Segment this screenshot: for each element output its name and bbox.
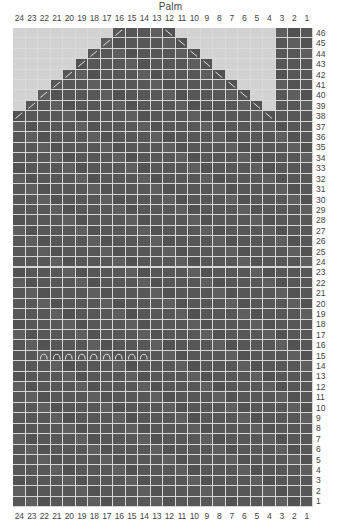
stitch-cell bbox=[176, 434, 189, 444]
stitch-cell bbox=[213, 486, 226, 496]
stitch-cell bbox=[213, 403, 226, 413]
stitch-cell bbox=[201, 278, 214, 288]
no-stitch-cell bbox=[263, 59, 276, 69]
stitch-cell bbox=[51, 392, 64, 402]
stitch-cell bbox=[176, 403, 189, 413]
stitch-cell bbox=[76, 403, 89, 413]
stitch-cell bbox=[201, 424, 214, 434]
stitch-cell bbox=[176, 465, 189, 475]
stitch-cell bbox=[101, 361, 114, 371]
stitch-cell bbox=[51, 465, 64, 475]
stitch-cell bbox=[88, 132, 101, 142]
stitch-cell bbox=[251, 455, 264, 465]
arc-icon bbox=[76, 351, 88, 360]
stitch-cell bbox=[51, 153, 64, 163]
stitch-cell bbox=[238, 413, 251, 423]
stitch-cell bbox=[251, 111, 264, 121]
stitch-cell bbox=[126, 424, 139, 434]
row-label: 12 bbox=[316, 382, 340, 392]
stitch-cell bbox=[276, 268, 289, 278]
stitch-cell bbox=[276, 278, 289, 288]
no-stitch-cell bbox=[213, 28, 226, 38]
stitch-cell bbox=[251, 361, 264, 371]
stitch-cell bbox=[213, 392, 226, 402]
stitch-cell bbox=[301, 101, 314, 111]
stitch-cell bbox=[113, 476, 126, 486]
stitch-cell bbox=[301, 184, 314, 194]
stitch-cell bbox=[88, 403, 101, 413]
stitch-cell bbox=[26, 278, 39, 288]
stitch-cell bbox=[176, 153, 189, 163]
stitch-cell bbox=[126, 278, 139, 288]
stitch-cell bbox=[301, 49, 314, 59]
stitch-cell bbox=[251, 236, 264, 246]
column-label: 19 bbox=[76, 13, 89, 24]
stitch-cell bbox=[163, 153, 176, 163]
stitch-cell bbox=[238, 288, 251, 298]
stitch-cell bbox=[13, 455, 26, 465]
stitch-cell bbox=[151, 445, 164, 455]
stitch-cell bbox=[76, 278, 89, 288]
stitch-cell bbox=[151, 268, 164, 278]
stitch-cell bbox=[213, 122, 226, 132]
stitch-cell bbox=[276, 184, 289, 194]
stitch-cell bbox=[88, 445, 101, 455]
stitch-cell bbox=[251, 434, 264, 444]
stitch-cell bbox=[101, 90, 114, 100]
stitch-cell bbox=[201, 215, 214, 225]
stitch-cell bbox=[201, 434, 214, 444]
column-label: 15 bbox=[126, 13, 139, 24]
stitch-cell bbox=[188, 497, 201, 507]
no-stitch-cell bbox=[76, 49, 89, 59]
stitch-cell bbox=[163, 476, 176, 486]
stitch-cell bbox=[263, 247, 276, 257]
stitch-cell bbox=[63, 101, 76, 111]
stitch-cell bbox=[38, 153, 51, 163]
stitch-cell bbox=[126, 445, 139, 455]
stitch-cell bbox=[213, 215, 226, 225]
stitch-cell bbox=[201, 455, 214, 465]
stitch-cell bbox=[276, 330, 289, 340]
stitch-cell bbox=[88, 195, 101, 205]
stitch-cell bbox=[63, 382, 76, 392]
stitch-cell bbox=[51, 361, 64, 371]
stitch-cell bbox=[276, 465, 289, 475]
stitch-cell bbox=[226, 226, 239, 236]
stitch-cell bbox=[301, 320, 314, 330]
row-label: 16 bbox=[316, 340, 340, 350]
stitch-cell bbox=[38, 309, 51, 319]
stitch-cell bbox=[188, 351, 201, 361]
stitch-cell bbox=[126, 132, 139, 142]
stitch-cell bbox=[51, 299, 64, 309]
stitch-cell bbox=[288, 445, 301, 455]
stitch-cell bbox=[126, 476, 139, 486]
stitch-cell bbox=[238, 476, 251, 486]
stitch-cell bbox=[138, 163, 151, 173]
stitch-cell bbox=[101, 132, 114, 142]
stitch-cell bbox=[151, 392, 164, 402]
stitch-cell bbox=[88, 392, 101, 402]
stitch-cell bbox=[38, 486, 51, 496]
stitch-cell bbox=[13, 257, 26, 267]
stitch-cell bbox=[213, 476, 226, 486]
stitch-cell bbox=[151, 163, 164, 173]
stitch-cell bbox=[226, 143, 239, 153]
stitch-cell bbox=[251, 195, 264, 205]
stitch-cell bbox=[176, 132, 189, 142]
slash-decrease-icon bbox=[101, 38, 113, 47]
stitch-cell bbox=[238, 486, 251, 496]
arc-icon bbox=[63, 351, 75, 360]
stitch-cell bbox=[51, 268, 64, 278]
stitch-cell bbox=[263, 236, 276, 246]
stitch-cell bbox=[188, 424, 201, 434]
no-stitch-cell bbox=[13, 90, 26, 100]
stitch-cell bbox=[276, 299, 289, 309]
stitch-cell bbox=[263, 195, 276, 205]
stitch-cell bbox=[163, 372, 176, 382]
stitch-cell bbox=[163, 320, 176, 330]
stitch-cell bbox=[13, 174, 26, 184]
stitch-cell bbox=[126, 236, 139, 246]
stitch-cell bbox=[263, 372, 276, 382]
knitting-chart-grid bbox=[13, 28, 313, 507]
stitch-cell bbox=[213, 288, 226, 298]
